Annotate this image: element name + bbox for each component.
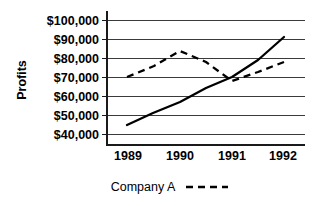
y-axis-title: Profits — [15, 60, 29, 100]
chart-background — [0, 0, 324, 206]
ytick-label-40000: $40,000 — [54, 128, 99, 142]
ytick-label-70000: $70,000 — [54, 71, 99, 85]
ytick-label-100000: $100,000 — [47, 14, 99, 28]
legend-label-company-a: Company A — [111, 180, 176, 194]
ytick-label-60000: $60,000 — [54, 90, 99, 104]
xtick-label-1989: 1989 — [114, 149, 142, 163]
xtick-label-1991: 1991 — [218, 149, 246, 163]
xtick-label-1990: 1990 — [166, 149, 194, 163]
ytick-label-90000: $90,000 — [54, 33, 99, 47]
y-tick-labels: $100,000 $90,000 $80,000 $70,000 $60,000… — [47, 14, 99, 142]
ytick-label-80000: $80,000 — [54, 52, 99, 66]
ytick-label-50000: $50,000 — [54, 109, 99, 123]
chart-canvas: $100,000 $90,000 $80,000 $70,000 $60,000… — [0, 0, 324, 206]
profits-line-chart: $100,000 $90,000 $80,000 $70,000 $60,000… — [0, 0, 324, 206]
xtick-label-1992: 1992 — [269, 149, 297, 163]
